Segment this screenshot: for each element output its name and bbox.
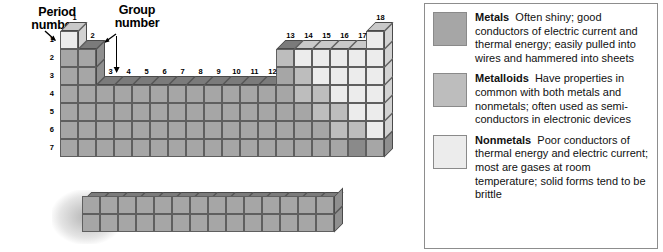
element-cell[interactable] [204, 121, 222, 139]
f-block-cell[interactable] [136, 196, 154, 214]
element-cell[interactable] [330, 139, 348, 157]
element-cell[interactable] [60, 67, 78, 85]
f-block-cell[interactable] [280, 214, 298, 232]
f-block-cell[interactable] [226, 214, 244, 232]
element-cell[interactable] [78, 49, 96, 67]
f-block-cell[interactable] [262, 196, 280, 214]
element-cell[interactable] [78, 139, 96, 157]
f-block-cell[interactable] [244, 214, 262, 232]
f-block-cell[interactable] [244, 196, 262, 214]
f-block-cell[interactable] [316, 214, 334, 232]
element-cell[interactable] [132, 121, 150, 139]
element-cell[interactable] [276, 103, 294, 121]
element-cell[interactable] [60, 49, 78, 67]
f-block-cell[interactable] [280, 196, 298, 214]
element-cell[interactable] [132, 85, 150, 103]
element-cell[interactable] [96, 139, 114, 157]
f-block-cell[interactable] [298, 214, 316, 232]
f-block-cell[interactable] [100, 196, 118, 214]
f-block-cell[interactable] [172, 214, 190, 232]
element-cell[interactable] [312, 67, 330, 85]
element-cell[interactable] [294, 85, 312, 103]
element-cell[interactable] [294, 67, 312, 85]
element-cell[interactable] [186, 103, 204, 121]
element-cell[interactable] [204, 85, 222, 103]
element-cell[interactable] [348, 121, 366, 139]
element-cell[interactable] [240, 139, 258, 157]
element-cell[interactable] [78, 67, 96, 85]
f-block-cell[interactable] [208, 196, 226, 214]
element-cell[interactable] [276, 49, 294, 67]
element-cell[interactable] [258, 139, 276, 157]
f-block-cell[interactable] [154, 214, 172, 232]
element-cell[interactable] [258, 121, 276, 139]
f-block-cell[interactable] [82, 196, 100, 214]
f-block-cell[interactable] [82, 214, 100, 232]
element-cell[interactable] [60, 85, 78, 103]
element-cell[interactable] [222, 85, 240, 103]
element-cell[interactable] [348, 67, 366, 85]
element-cell[interactable] [168, 85, 186, 103]
f-block-cell[interactable] [316, 196, 334, 214]
f-block-cell[interactable] [100, 214, 118, 232]
f-block-cell[interactable] [172, 196, 190, 214]
element-cell[interactable] [312, 49, 330, 67]
element-cell[interactable] [294, 49, 312, 67]
element-cell[interactable] [60, 139, 78, 157]
element-cell[interactable] [258, 85, 276, 103]
element-cell[interactable] [312, 85, 330, 103]
element-cell[interactable] [366, 103, 384, 121]
element-cell[interactable] [240, 103, 258, 121]
f-block-cell[interactable] [136, 214, 154, 232]
f-block-cell[interactable] [298, 196, 316, 214]
element-cell[interactable] [150, 103, 168, 121]
element-cell[interactable] [294, 103, 312, 121]
element-cell[interactable] [60, 31, 78, 49]
element-cell[interactable] [330, 49, 348, 67]
element-cell[interactable] [168, 121, 186, 139]
element-cell[interactable] [132, 103, 150, 121]
f-block-cell[interactable] [226, 196, 244, 214]
element-cell[interactable] [186, 85, 204, 103]
element-cell[interactable] [312, 121, 330, 139]
element-cell[interactable] [366, 121, 384, 139]
element-cell[interactable] [168, 139, 186, 157]
element-cell[interactable] [312, 139, 330, 157]
element-cell[interactable] [150, 85, 168, 103]
element-cell[interactable] [78, 85, 96, 103]
element-cell[interactable] [348, 103, 366, 121]
element-cell[interactable] [258, 103, 276, 121]
element-cell[interactable] [330, 85, 348, 103]
f-block-cell[interactable] [118, 214, 136, 232]
element-cell[interactable] [276, 121, 294, 139]
element-cell[interactable] [96, 103, 114, 121]
element-cell[interactable] [366, 67, 384, 85]
element-cell[interactable] [204, 139, 222, 157]
element-cell[interactable] [114, 121, 132, 139]
element-cell[interactable] [222, 139, 240, 157]
f-block-cell[interactable] [208, 214, 226, 232]
element-cell[interactable] [96, 121, 114, 139]
element-cell[interactable] [168, 103, 186, 121]
element-cell[interactable] [366, 49, 384, 67]
element-cell[interactable] [222, 121, 240, 139]
element-cell[interactable] [330, 121, 348, 139]
element-cell[interactable] [276, 85, 294, 103]
element-cell[interactable] [132, 139, 150, 157]
element-cell[interactable] [78, 121, 96, 139]
f-block-cell[interactable] [190, 196, 208, 214]
element-cell[interactable] [240, 85, 258, 103]
element-cell[interactable] [114, 103, 132, 121]
f-block-cell[interactable] [154, 196, 172, 214]
element-cell[interactable] [348, 85, 366, 103]
element-cell[interactable] [60, 103, 78, 121]
element-cell[interactable] [186, 139, 204, 157]
element-cell[interactable] [186, 121, 204, 139]
element-cell[interactable] [294, 139, 312, 157]
element-cell[interactable] [276, 139, 294, 157]
element-cell[interactable] [114, 139, 132, 157]
element-cell[interactable] [150, 139, 168, 157]
element-cell[interactable] [240, 121, 258, 139]
f-block-cell[interactable] [190, 214, 208, 232]
element-cell[interactable] [330, 103, 348, 121]
